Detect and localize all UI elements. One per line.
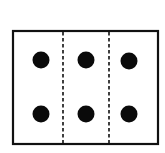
outer-frame xyxy=(13,31,158,144)
dot-3 xyxy=(121,53,138,70)
dot-grid xyxy=(33,52,138,123)
dot-6 xyxy=(121,106,138,123)
dot-4 xyxy=(33,106,50,123)
dot-1 xyxy=(33,52,50,69)
column-dividers xyxy=(63,32,109,143)
dot-5 xyxy=(78,106,95,123)
dot-2 xyxy=(78,52,95,69)
dots-diagram xyxy=(0,0,165,153)
